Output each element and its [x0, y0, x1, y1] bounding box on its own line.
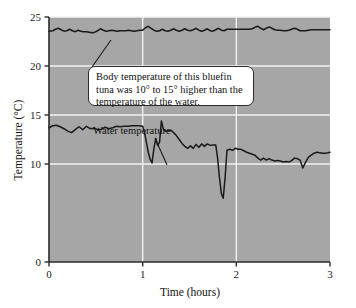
x-tick-label: 3 [327, 268, 333, 280]
x-tick-label: 0 [46, 268, 52, 280]
y-tick-label: 20 [30, 60, 42, 72]
y-axis-title: Temperature (°C) [12, 99, 25, 180]
y-tick-label: 25 [30, 11, 42, 23]
x-tick-label: 2 [234, 268, 240, 280]
chart-figure: 0101520250123 Temperature (°C) Time (hou… [0, 0, 356, 308]
temperature-chart: 0101520250123 Temperature (°C) Time (hou… [0, 0, 356, 308]
x-axis-title: Time (hours) [160, 286, 220, 299]
y-tick-label: 0 [36, 256, 42, 268]
water-temperature-label: Water temperature [93, 125, 171, 136]
callout-line-1: Body temperature of this bluefin [96, 71, 247, 84]
callout-line-2: tuna was 10° to 15° higher than the [96, 84, 247, 97]
callout-box: Body temperature of this bluefin tuna wa… [88, 66, 254, 106]
callout-line-3: temperature of the water. [96, 96, 247, 109]
y-tick-label: 10 [30, 158, 42, 170]
plot-area-background [49, 17, 330, 262]
x-tick-label: 1 [140, 268, 146, 280]
y-tick-label: 15 [30, 109, 42, 121]
